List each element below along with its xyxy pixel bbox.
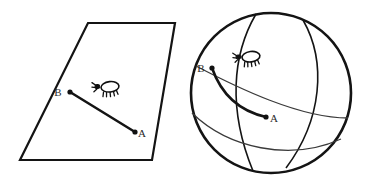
sphere-point-b-dot <box>209 65 214 70</box>
geodesic-figure: B A <box>0 0 366 184</box>
plane-label-b: B <box>54 86 61 98</box>
plane-point-a-dot <box>132 129 137 134</box>
plane-point-b-dot <box>67 89 72 94</box>
sphere-point-a-dot <box>263 114 268 119</box>
sphere-label-a: A <box>270 112 278 124</box>
plane-label-a: A <box>138 127 146 139</box>
figure-canvas: B A <box>0 0 366 184</box>
sphere-label-b: B <box>197 62 204 74</box>
